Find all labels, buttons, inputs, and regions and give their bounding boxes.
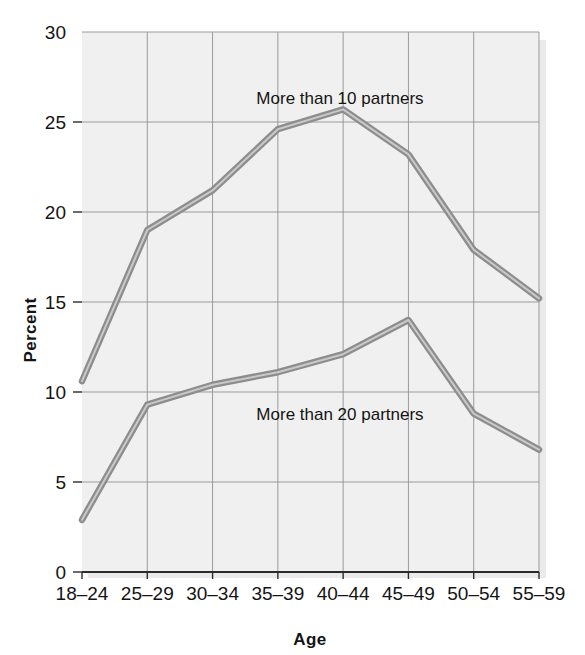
x-tick-label: 18–24 — [56, 583, 109, 604]
line-chart: 051015202530 18–2425–2930–3435–3940–4445… — [0, 0, 585, 655]
series-annotation: More than 10 partners — [256, 89, 423, 108]
y-tick-label: 30 — [45, 22, 66, 43]
x-tick-label: 55–59 — [513, 583, 566, 604]
x-tick-label: 45–49 — [382, 583, 435, 604]
y-tick-label: 10 — [45, 382, 66, 403]
y-tick-label: 25 — [45, 112, 66, 133]
y-tick-label: 15 — [45, 292, 66, 313]
y-tick-label: 0 — [55, 562, 66, 583]
x-tick-label: 40–44 — [317, 583, 370, 604]
chart-figure: 051015202530 18–2425–2930–3435–3940–4445… — [0, 0, 585, 655]
x-tick-label: 25–29 — [121, 583, 174, 604]
y-axis-title: Percent — [21, 297, 40, 362]
y-axis: 051015202530 — [45, 22, 82, 583]
series-annotation: More than 20 partners — [256, 405, 423, 424]
y-tick-label: 20 — [45, 202, 66, 223]
x-tick-label: 30–34 — [186, 583, 239, 604]
x-tick-label: 35–39 — [251, 583, 304, 604]
x-tick-label: 50–54 — [447, 583, 500, 604]
x-axis-title: Age — [293, 630, 326, 649]
y-tick-label: 5 — [55, 472, 66, 493]
